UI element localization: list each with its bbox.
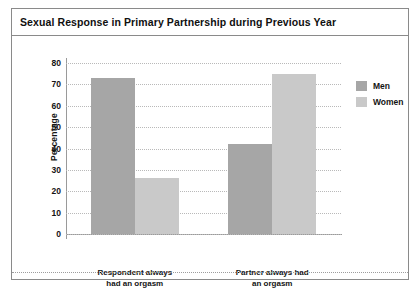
x-axis-tick-label-line2: an orgasm [204,278,342,288]
title-box: Sexual Response in Primary Partnership d… [11,8,409,36]
legend: Men Women [356,81,404,113]
bar-women-group-1 [135,178,179,234]
x-axis-tick-label: Respondent alwayshad an orgasm [66,267,204,288]
y-axis-tick-label: 10 [52,208,61,218]
legend-label-men: Men [373,81,390,91]
page-title: Sexual Response in Primary Partnership d… [11,16,336,28]
gridline [66,63,341,64]
y-axis-label: Percentage [49,82,59,192]
y-axis-tick-label: 40 [52,144,61,154]
y-axis-tick-label: 0 [56,229,61,239]
x-axis-tick-label: Partner always hadan orgasm [204,267,342,288]
plot-container: Percentage 01020304050607080Respondent a… [11,36,409,280]
legend-swatch-men-icon [356,81,367,91]
y-axis-tick-label: 30 [52,165,61,175]
y-axis-tick-label: 20 [52,186,61,196]
legend-swatch-women-icon [356,97,367,107]
legend-item-men: Men [356,81,404,91]
y-axis-tick-label: 50 [52,122,61,132]
y-axis-tick-label: 60 [52,101,61,111]
plot-area: 01020304050607080Respondent alwayshad an… [66,63,341,234]
x-axis-tick-label-line2: had an orgasm [66,278,204,288]
legend-label-women: Women [373,97,404,107]
chart-figure: Sexual Response in Primary Partnership d… [0,0,420,288]
legend-item-women: Women [356,97,404,107]
gridline [66,234,341,235]
bar-women-group-2 [272,74,316,234]
bar-men-group-2 [228,144,272,234]
bar-men-group-1 [91,78,135,234]
y-axis-tick-label: 70 [52,79,61,89]
y-axis-tick-label: 80 [52,58,61,68]
footer-divider [12,272,408,273]
